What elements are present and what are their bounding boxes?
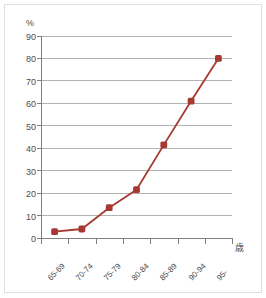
series-line (55, 58, 219, 231)
y-axis-ticks (37, 36, 41, 238)
series-markers (51, 55, 222, 235)
data-point-70-74 (79, 226, 86, 233)
plot-area (0, 0, 266, 298)
x-axis-ticks (41, 238, 232, 244)
data-point-85-89 (160, 142, 167, 149)
data-point-75-79 (106, 204, 113, 211)
data-point-90-94 (188, 98, 195, 105)
chart-figure: % 歳 90 80 70 60 50 40 30 20 10 0 65-69 7… (0, 0, 266, 298)
data-point-80-84 (133, 186, 140, 193)
data-point-65-69 (51, 228, 58, 235)
data-point-95 (215, 55, 222, 62)
